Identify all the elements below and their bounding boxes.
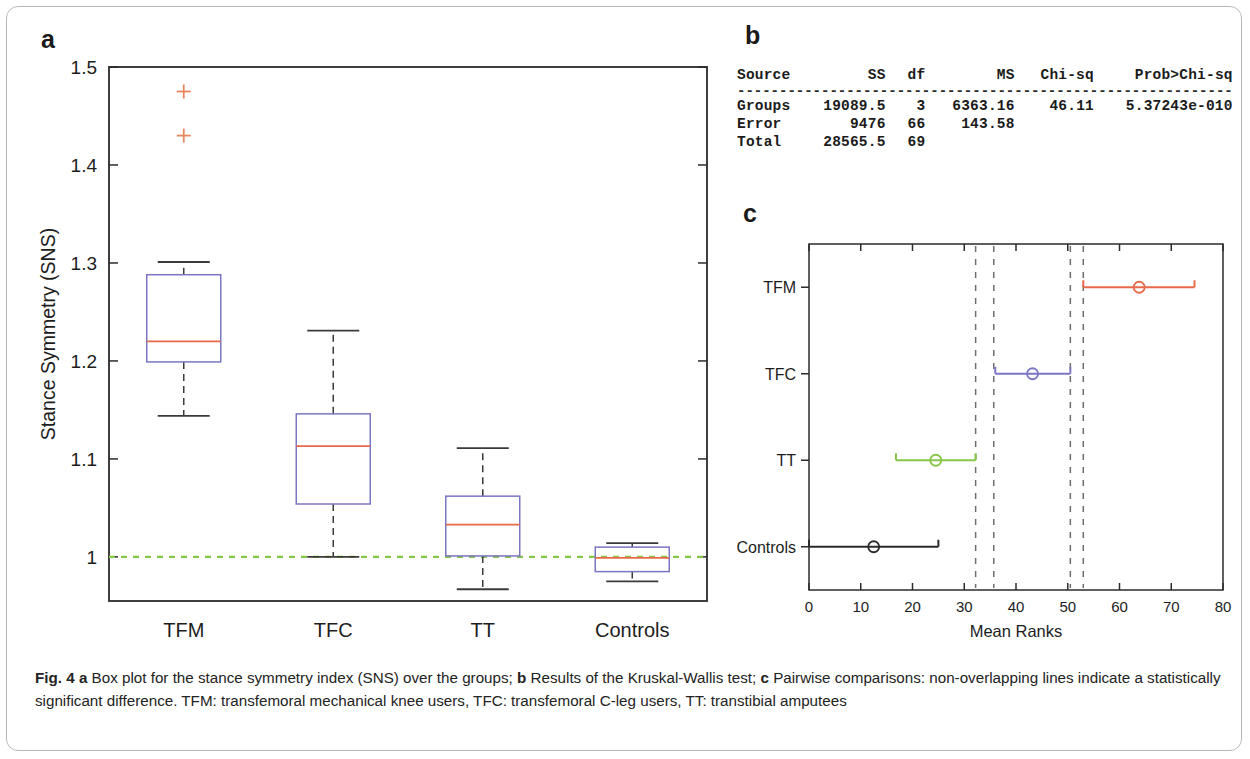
table-cell: 5.37243e-010 <box>1094 97 1233 115</box>
table-row: Total28565.569 <box>737 133 1233 151</box>
x-tick-label: 40 <box>1008 598 1025 615</box>
table-cell: 143.58 <box>925 115 1014 133</box>
x-tick-label: 10 <box>852 598 869 615</box>
table-cell: Error <box>737 115 796 133</box>
box-plot-group <box>446 448 520 589</box>
x-tick-label: 50 <box>1059 598 1076 615</box>
panel-b-letter: b <box>745 21 760 50</box>
caption-a-letter: a <box>79 669 87 686</box>
table-cell <box>1015 133 1094 151</box>
x-category-label: TFC <box>314 619 353 641</box>
table-header-source: Source <box>737 67 796 85</box>
plot-frame <box>809 244 1223 590</box>
x-tick-label: 20 <box>904 598 921 615</box>
box-plot-group <box>296 331 370 557</box>
panel-b-stats-table: Source SS df MS Chi-sq Prob>Chi-sq -----… <box>737 67 1247 192</box>
table-header-prob: Prob>Chi-sq <box>1094 67 1233 85</box>
comparison-interval-group <box>1083 280 1194 293</box>
panel-c-pairwise: 01020304050607080Mean RanksTFMTFCTTContr… <box>737 222 1242 647</box>
box-iqr <box>296 414 370 504</box>
table-cell: 19089.5 <box>796 97 885 115</box>
table-cell <box>925 133 1014 151</box>
table-cell <box>1094 115 1233 133</box>
x-tick-label: 60 <box>1111 598 1128 615</box>
figure-card: a b c 11.11.21.31.41.5Stance Symmetry (S… <box>6 6 1242 751</box>
table-cell <box>1094 133 1233 151</box>
table-head: Source SS df MS Chi-sq Prob>Chi-sq -----… <box>737 67 1233 97</box>
y-tick-label: 1 <box>86 547 97 568</box>
table-header-df: df <box>886 67 926 85</box>
table-cell: 66 <box>886 115 926 133</box>
boxplot-svg: 11.11.21.31.41.5Stance Symmetry (SNS)TFM… <box>21 31 721 651</box>
table-cell: Groups <box>737 97 796 115</box>
y-tick-label: 1.5 <box>71 57 97 78</box>
y-category-label: TT <box>776 452 796 469</box>
table-cell: 3 <box>886 97 926 115</box>
table-header-chisq: Chi-sq <box>1015 67 1094 85</box>
x-axis-title: Mean Ranks <box>970 622 1063 640</box>
comparison-interval-group <box>809 540 938 553</box>
comparison-interval-group <box>896 453 976 466</box>
y-tick-label: 1.3 <box>71 253 97 274</box>
table-header-ss: SS <box>796 67 885 85</box>
caption-c-letter: c <box>760 669 768 686</box>
kruskal-wallis-table: Source SS df MS Chi-sq Prob>Chi-sq -----… <box>737 67 1233 151</box>
box-iqr <box>147 275 221 362</box>
box-iqr <box>446 496 520 556</box>
table-row: Error947666143.58 <box>737 115 1233 133</box>
table-separator-row: ----------------------------------------… <box>737 85 1233 97</box>
y-tick-label: 1.4 <box>71 155 98 176</box>
table-cell: 28565.5 <box>796 133 885 151</box>
x-category-label: TFM <box>163 619 204 641</box>
caption-figure-number: Fig. 4 <box>35 669 75 686</box>
panel-a-boxplot: 11.11.21.31.41.5Stance Symmetry (SNS)TFM… <box>21 31 721 651</box>
table-header-row: Source SS df MS Chi-sq Prob>Chi-sq <box>737 67 1233 85</box>
pairwise-comparison-svg: 01020304050607080Mean RanksTFMTFCTTContr… <box>737 222 1242 647</box>
caption-b-letter: b <box>517 669 526 686</box>
figure-caption: Fig. 4 a Box plot for the stance symmetr… <box>35 667 1225 712</box>
comparison-interval-group <box>995 367 1070 380</box>
table-body: Groups19089.536363.1646.115.37243e-010Er… <box>737 97 1233 151</box>
y-tick-label: 1.1 <box>71 449 97 470</box>
box-iqr <box>595 547 669 571</box>
table-cell: 46.11 <box>1015 97 1094 115</box>
y-category-label: TFM <box>763 279 796 296</box>
x-category-label: TT <box>471 619 495 641</box>
table-cell <box>1015 115 1094 133</box>
table-cell: 6363.16 <box>925 97 1014 115</box>
box-plot-group <box>147 84 221 415</box>
table-row: Groups19089.536363.1646.115.37243e-010 <box>737 97 1233 115</box>
x-tick-label: 0 <box>805 598 813 615</box>
caption-b-text: Results of the Kruskal-Wallis test; <box>531 669 757 686</box>
x-tick-label: 80 <box>1215 598 1232 615</box>
x-tick-label: 70 <box>1163 598 1180 615</box>
table-cell: 9476 <box>796 115 885 133</box>
y-axis-title: Stance Symmetry (SNS) <box>37 228 59 440</box>
y-category-label: Controls <box>737 539 796 556</box>
y-category-label: TFC <box>765 366 796 383</box>
table-header-ms: MS <box>925 67 1014 85</box>
x-category-label: Controls <box>595 619 669 641</box>
y-tick-label: 1.2 <box>71 351 97 372</box>
table-separator: ----------------------------------------… <box>737 85 1233 97</box>
plot-frame <box>109 67 707 601</box>
box-plot-group <box>595 543 669 581</box>
table-cell: 69 <box>886 133 926 151</box>
table-cell: Total <box>737 133 796 151</box>
caption-a-text: Box plot for the stance symmetry index (… <box>92 669 513 686</box>
x-tick-label: 30 <box>956 598 973 615</box>
